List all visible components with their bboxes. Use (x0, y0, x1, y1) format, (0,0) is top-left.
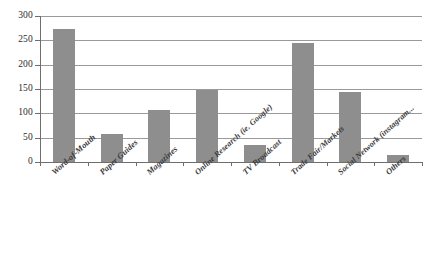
x-axis-label: TV Broadcast (241, 137, 283, 176)
x-axis-label: Online Research (ie. Google) (193, 102, 274, 176)
bar-chart: 050100150200250300 Word-of-MouthPaper Gu… (0, 0, 434, 267)
x-axis-labels: Word-of-MouthPaper GuidesMagazinesOnline… (0, 0, 434, 267)
x-axis-label: Magazines (145, 144, 179, 176)
x-axis-label: Paper Guides (98, 138, 140, 177)
x-axis-label: Word-of-Mouth (50, 133, 97, 177)
x-axis-label: Others (384, 154, 408, 177)
x-axis-label: Social Network (instagram... (336, 103, 416, 176)
